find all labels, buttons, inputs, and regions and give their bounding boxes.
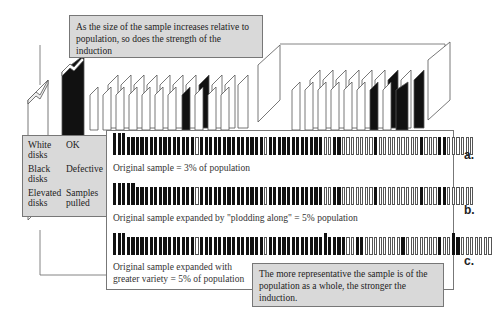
defective-disk	[118, 133, 121, 155]
defective-disk	[150, 187, 153, 205]
defective-disk	[278, 137, 281, 155]
defective-disk	[237, 237, 240, 255]
ok-disk	[195, 187, 198, 205]
row-label-c: c.	[464, 254, 474, 268]
defective-disk	[227, 237, 230, 255]
defective-disk	[356, 237, 359, 255]
ok-disk	[411, 237, 414, 255]
sample-strip-c	[113, 233, 492, 255]
defective-disk	[246, 137, 249, 155]
defective-disk	[232, 187, 235, 205]
defective-disk	[333, 137, 336, 155]
defective-disk	[255, 137, 258, 155]
defective-disk	[314, 137, 317, 155]
top-callout-text: As the size of the sample increases rela…	[76, 22, 249, 56]
ok-disk	[484, 237, 487, 255]
defective-disk	[250, 237, 253, 255]
ok-disk	[452, 187, 455, 205]
defective-disk	[131, 237, 134, 255]
defective-disk	[127, 183, 130, 205]
defective-disk	[136, 137, 139, 155]
ok-disk	[328, 187, 331, 205]
ok-disk	[346, 137, 349, 155]
defective-disk	[122, 233, 125, 255]
ok-disk	[429, 237, 432, 255]
defective-disk	[140, 237, 143, 255]
defective-disk	[154, 137, 157, 155]
ok-disk	[264, 237, 267, 255]
defective-disk	[214, 187, 217, 205]
ok-disk	[406, 237, 409, 255]
defective-disk	[191, 187, 194, 205]
ok-disk	[488, 237, 491, 255]
caption-c: Original sample expanded with greater va…	[113, 261, 253, 285]
defective-disk	[278, 187, 281, 205]
ok-disk	[397, 187, 400, 205]
defective-disk	[246, 237, 249, 255]
defective-disk	[282, 237, 285, 255]
defective-disk	[127, 237, 130, 255]
defective-disk	[296, 187, 299, 205]
legend-key-elevated: Elevated disks	[28, 188, 66, 212]
defective-disk	[273, 187, 276, 205]
defective-disk	[310, 187, 313, 205]
defective-disk	[260, 137, 263, 155]
defective-disk	[173, 137, 176, 155]
ok-disk	[397, 237, 400, 255]
ok-disk	[443, 237, 446, 255]
defective-disk	[282, 137, 285, 155]
defective-disk	[136, 237, 139, 255]
defective-disk	[438, 237, 441, 255]
ok-disk	[388, 237, 391, 255]
defective-disk	[131, 137, 134, 155]
ok-disk	[356, 187, 359, 205]
defective-disk	[273, 237, 276, 255]
defective-disk	[209, 187, 212, 205]
legend-key-white: White disks	[28, 140, 66, 164]
defective-disk	[319, 187, 322, 205]
defective-disk	[113, 233, 116, 255]
defective-disk	[269, 237, 272, 255]
defective-disk	[301, 187, 304, 205]
ok-disk	[456, 187, 459, 205]
defective-disk	[420, 187, 423, 205]
defective-disk	[227, 137, 230, 155]
defective-disk	[282, 187, 285, 205]
ok-disk	[356, 137, 359, 155]
defective-disk	[159, 187, 162, 205]
defective-disk	[223, 237, 226, 255]
defective-disk	[140, 137, 143, 155]
defective-disk	[209, 237, 212, 255]
ok-disk	[264, 187, 267, 205]
ok-disk	[401, 187, 404, 205]
ok-disk	[351, 237, 354, 255]
defective-disk	[255, 237, 258, 255]
caption-b: Original sample expanded by "plodding al…	[113, 213, 358, 223]
ok-disk	[406, 187, 409, 205]
row-label-b: b.	[464, 203, 475, 217]
defective-disk	[186, 237, 189, 255]
defective-disk	[118, 233, 121, 255]
ok-disk	[383, 237, 386, 255]
defective-disk	[250, 137, 253, 155]
ok-disk	[264, 137, 267, 155]
defective-disk	[200, 237, 203, 255]
defective-disk	[163, 187, 166, 205]
defective-disk	[337, 237, 340, 255]
defective-disk	[223, 137, 226, 155]
bottom-callout-text: The more representative the sample is of…	[259, 269, 428, 303]
defective-disk	[324, 233, 327, 255]
defective-disk	[296, 237, 299, 255]
defective-disk	[173, 187, 176, 205]
ok-disk	[433, 137, 436, 155]
defective-disk	[456, 237, 459, 255]
ok-disk	[365, 187, 368, 205]
defective-disk	[168, 187, 171, 205]
defective-disk	[205, 187, 208, 205]
ok-disk	[360, 137, 363, 155]
row-label-a: a.	[464, 148, 474, 162]
ok-disk	[470, 237, 473, 255]
defective-disk	[163, 237, 166, 255]
defective-disk	[269, 137, 272, 155]
defective-disk	[186, 187, 189, 205]
